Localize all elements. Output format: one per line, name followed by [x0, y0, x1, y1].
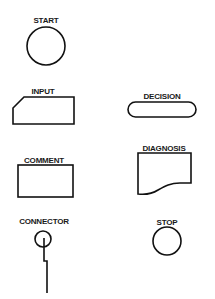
decision-pill-shape — [128, 102, 196, 117]
diagnosis-symbol: DIAGNOSIS — [138, 144, 191, 194]
connector-label: CONNECTOR — [19, 217, 69, 226]
connector-circle-shape — [35, 231, 51, 247]
decision-symbol: DECISION — [128, 92, 196, 117]
connector-symbol: CONNECTOR — [19, 217, 69, 293]
start-label: START — [33, 16, 58, 25]
diagnosis-document-shape — [138, 153, 191, 194]
start-symbol: START — [27, 16, 65, 65]
stop-circle-shape — [153, 227, 181, 255]
flowchart-symbol-legend: START INPUT DECISION COMMENT DIAGNOSIS C… — [0, 0, 215, 299]
input-chamfered-shape — [13, 97, 74, 124]
diagnosis-label: DIAGNOSIS — [142, 144, 186, 153]
stop-symbol: STOP — [153, 218, 181, 255]
stop-label: STOP — [157, 218, 179, 227]
start-circle-shape — [27, 27, 65, 65]
input-label: INPUT — [31, 87, 54, 96]
comment-rectangle-shape — [18, 165, 73, 197]
comment-label: COMMENT — [24, 156, 64, 165]
comment-symbol: COMMENT — [18, 156, 73, 197]
input-symbol: INPUT — [13, 87, 74, 124]
decision-label: DECISION — [143, 92, 180, 101]
